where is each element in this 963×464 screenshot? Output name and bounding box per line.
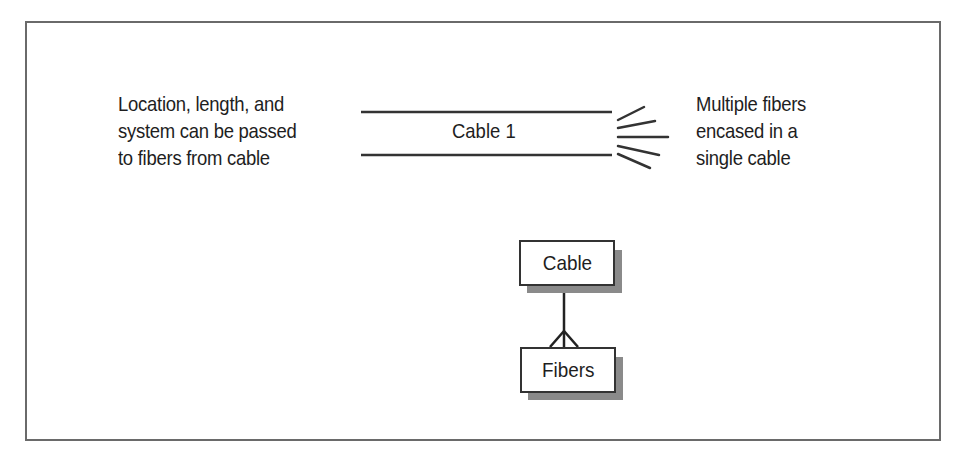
cable-label: Cable 1 [452,119,516,143]
fibers-entity: Fibers [520,347,616,393]
cable-drawing [0,0,963,464]
fiber-strands-icon [618,107,668,168]
cable-entity-label: Cable [542,251,591,275]
crows-foot-relationship-icon [550,285,578,347]
cable-entity: Cable [519,240,615,286]
fibers-entity-label: Fibers [542,358,595,382]
